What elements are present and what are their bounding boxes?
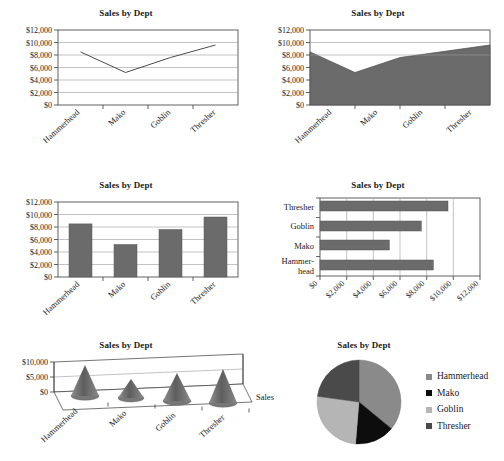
pie-chart-svg bbox=[304, 354, 424, 461]
column-chart-plot-area: $12,000 $10,000 $8,000 $6,000 $4,000 $2,… bbox=[26, 198, 238, 317]
column-chart-panel: Sales by Dept bbox=[0, 180, 252, 330]
line-y-tick-marks bbox=[54, 30, 58, 105]
y-tick-label: $10,000 bbox=[26, 39, 52, 48]
cone3d-plot-area: $10,000 $5,000 $0 Hammerhead Mako Goblin… bbox=[22, 354, 274, 444]
legend-label: Goblin bbox=[437, 405, 463, 415]
area-y-tick-marks bbox=[306, 30, 310, 105]
bar-chart-plot-area: Thresher Goblin Mako Hammer- head $0 $2,… bbox=[282, 198, 481, 303]
y-tick-label: $6,000 bbox=[30, 236, 52, 245]
bar-row bbox=[320, 221, 421, 231]
x-category-label: Mako bbox=[107, 408, 128, 429]
x-category-label: Goblin bbox=[148, 107, 173, 131]
x-category-label: Mako bbox=[106, 107, 127, 128]
x-category-label: Hammerhead bbox=[39, 406, 80, 445]
line-chart-title: Sales by Dept bbox=[0, 8, 252, 18]
legend-item: Goblin bbox=[426, 405, 488, 415]
x-tick-label: $4,000 bbox=[351, 279, 373, 300]
x-category-label: Thresher bbox=[188, 279, 217, 307]
bar-chart-panel: Sales by Dept bbox=[252, 180, 504, 330]
x-category-label: Hammerhead bbox=[41, 107, 82, 146]
cone3d-chart-panel: Sales by Dept bbox=[0, 340, 280, 461]
y-tick-label: $4,000 bbox=[30, 248, 52, 257]
area-series-sales bbox=[310, 45, 490, 105]
legend-swatch-icon bbox=[426, 374, 432, 380]
area-chart-plot-area: $12,000 $10,000 $8,000 $6,000 $4,000 $2,… bbox=[278, 26, 490, 145]
legend-item: Thresher bbox=[426, 422, 488, 432]
x-category-label: Goblin bbox=[153, 410, 178, 434]
y-tick-label: $2,000 bbox=[30, 261, 52, 270]
x-category-label: Thresher bbox=[444, 107, 473, 135]
y-tick-label: $0 bbox=[44, 273, 52, 282]
cone3d-series-label: Sales bbox=[256, 392, 274, 402]
bar-chart-svg: Thresher Goblin Mako Hammer- head $0 $2,… bbox=[252, 180, 504, 330]
pie-slice-goblin bbox=[317, 396, 359, 444]
cone3d-chart-title: Sales by Dept bbox=[0, 340, 252, 350]
bar-y-tick-marks bbox=[316, 198, 320, 276]
line-x-tick-marks bbox=[103, 105, 193, 109]
y-tick-label: $6,000 bbox=[30, 64, 52, 73]
legend-swatch-icon bbox=[426, 423, 432, 429]
legend-label: Hammerhead bbox=[437, 372, 488, 382]
y-tick-label: $8,000 bbox=[30, 223, 52, 232]
x-category-label: Mako bbox=[358, 107, 379, 128]
column-y-tick-marks bbox=[54, 202, 58, 277]
y-tick-label: $10,000 bbox=[26, 211, 52, 220]
y-tick-label: $2,000 bbox=[282, 89, 304, 98]
x-tick-label: $12,000 bbox=[455, 279, 480, 303]
y-tick-label: $0 bbox=[40, 388, 48, 397]
legend-label: Mako bbox=[437, 389, 459, 399]
pie-chart-panel: Sales by Dept Hammerhead Mako Goblin Thr… bbox=[300, 340, 504, 461]
pie-slice-thresher bbox=[317, 360, 359, 402]
x-tick-label: $10,000 bbox=[428, 279, 453, 303]
x-tick-label: $0 bbox=[307, 279, 319, 291]
cone3d-chart-svg: $10,000 $5,000 $0 Hammerhead Mako Goblin… bbox=[0, 340, 280, 461]
pie-chart-title: Sales by Dept bbox=[304, 340, 424, 350]
column-bar bbox=[159, 230, 182, 278]
y-category-label: Mako bbox=[294, 241, 314, 251]
y-category-label: head bbox=[298, 266, 315, 276]
y-tick-label: $8,000 bbox=[30, 51, 52, 60]
x-category-label: Hammerhead bbox=[41, 279, 82, 318]
y-tick-label: $4,000 bbox=[282, 76, 304, 85]
area-chart-title: Sales by Dept bbox=[252, 8, 504, 18]
column-x-tick-marks bbox=[103, 277, 193, 281]
y-tick-label: $0 bbox=[44, 101, 52, 110]
area-chart-panel: Sales by Dept $12,000 $10,000 $8,000 $6,… bbox=[252, 8, 504, 156]
legend-swatch-icon bbox=[426, 390, 432, 396]
y-category-label: Goblin bbox=[290, 221, 314, 231]
x-category-label: Mako bbox=[106, 279, 127, 300]
x-tick-label: $2,000 bbox=[324, 279, 346, 300]
y-tick-label: $2,000 bbox=[30, 89, 52, 98]
y-category-label: Thresher bbox=[284, 202, 314, 212]
x-category-label: Goblin bbox=[400, 107, 425, 131]
y-category-label: Hammer- bbox=[282, 256, 315, 266]
legend-item: Hammerhead bbox=[426, 372, 488, 382]
x-tick-label: $8,000 bbox=[404, 279, 426, 300]
legend-swatch-icon bbox=[426, 407, 432, 413]
y-tick-label: $4,000 bbox=[30, 76, 52, 85]
pie-legend: Hammerhead Mako Goblin Thresher bbox=[426, 372, 488, 438]
bar-row bbox=[320, 240, 389, 250]
x-category-label: Thresher bbox=[197, 412, 226, 440]
x-category-label: Hammerhead bbox=[293, 107, 334, 146]
y-tick-label: $12,000 bbox=[26, 26, 52, 35]
y-tick-label: $12,000 bbox=[26, 198, 52, 207]
area-chart-svg: $12,000 $10,000 $8,000 $6,000 $4,000 $2,… bbox=[252, 8, 504, 156]
area-x-tick-marks bbox=[355, 105, 445, 109]
column-chart-title: Sales by Dept bbox=[0, 180, 252, 190]
line-chart-svg: $12,000 $10,000 $8,000 $6,000 $4,000 $2,… bbox=[0, 8, 252, 156]
pie-slices-group bbox=[317, 360, 401, 444]
bar-row bbox=[320, 260, 433, 270]
y-tick-label: $6,000 bbox=[282, 64, 304, 73]
y-tick-label: $0 bbox=[296, 101, 304, 110]
line-chart-panel: Sales by Dept $12,0 bbox=[0, 8, 252, 156]
y-tick-label: $5,000 bbox=[26, 373, 48, 382]
line-chart-plot-area: $12,000 $10,000 $8,000 $6,000 $4,000 $2,… bbox=[26, 26, 238, 145]
x-tick-label: $6,000 bbox=[377, 279, 399, 300]
column-bar bbox=[114, 245, 137, 278]
y-tick-label: $12,000 bbox=[278, 26, 304, 35]
x-category-label: Goblin bbox=[148, 279, 173, 303]
y-tick-label: $8,000 bbox=[282, 51, 304, 60]
legend-item: Mako bbox=[426, 389, 488, 399]
legend-label: Thresher bbox=[437, 422, 471, 432]
